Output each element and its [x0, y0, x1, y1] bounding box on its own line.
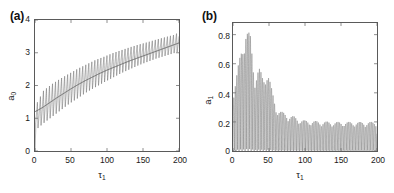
- panel-b-plot-svg: [233, 23, 377, 151]
- panel-a-xtick-200: 200: [170, 156, 190, 165]
- panel-b-xaxis-title: τ1: [285, 170, 315, 180]
- panel-a-xaxis-title-sub: 1: [102, 174, 106, 181]
- panel-a-ytick-4: 4: [14, 15, 30, 24]
- panel-a-plot-area: [34, 19, 180, 152]
- panel-b-yaxis-title-sub: 1: [207, 96, 214, 100]
- panel-a-ytick-3: 3: [14, 48, 30, 57]
- panel-a-xtick-100: 100: [97, 156, 117, 165]
- panel-a-xaxis-title: τ1: [87, 170, 117, 180]
- panel-b-yaxis-title: a1: [203, 75, 213, 105]
- panel-b-xtick-150: 150: [331, 156, 351, 165]
- panel-b-xtick-200: 200: [368, 156, 388, 165]
- panel-b-ytick-06: 0.6: [208, 61, 230, 70]
- panel-a-yaxis-title: a0: [6, 71, 16, 101]
- panel-b-tag: (b): [202, 10, 217, 22]
- panel-b-plot-area: [232, 22, 378, 152]
- panel-a-xtick-0: 0: [24, 156, 44, 165]
- panel-b-yaxis-title-main: a: [202, 100, 213, 105]
- panel-a-ytick-1: 1: [14, 114, 30, 123]
- panel-b-ytick-08: 0.8: [208, 32, 230, 41]
- panel-a-xtick-50: 50: [60, 156, 80, 165]
- panel-a-plot-svg: [35, 20, 179, 151]
- panel-b-xtick-50: 50: [258, 156, 278, 165]
- panel-b: (b) 0.8 0.6 0.4 0.2 0 0 50 100 150 200 τ…: [197, 0, 394, 193]
- panel-b-ytick-0: 0: [208, 147, 230, 156]
- panel-a: (a) 4 3 2 1 0 0 50 100 150 200 τ1 a0: [0, 0, 197, 193]
- panel-b-xaxis-title-sub: 1: [300, 174, 304, 181]
- panel-b-xtick-100: 100: [295, 156, 315, 165]
- figure-canvas: (a) 4 3 2 1 0 0 50 100 150 200 τ1 a0 (b)…: [0, 0, 394, 193]
- panel-b-ytick-02: 0.2: [208, 120, 230, 129]
- panel-a-ytick-2: 2: [14, 81, 30, 90]
- panel-b-xtick-0: 0: [222, 156, 242, 165]
- panel-a-xtick-150: 150: [133, 156, 153, 165]
- panel-a-ytick-0: 0: [14, 147, 30, 156]
- panel-a-yaxis-title-sub: 0: [10, 92, 17, 96]
- panel-a-yaxis-title-main: a: [5, 96, 16, 101]
